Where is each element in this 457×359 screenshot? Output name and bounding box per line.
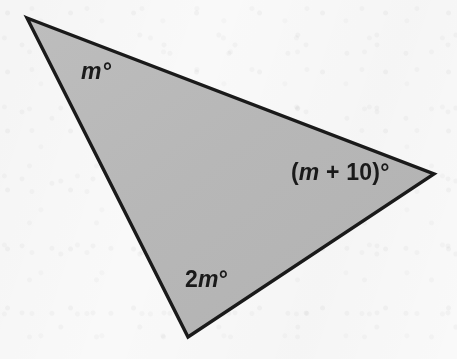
angle-label-right-variable: m: [299, 159, 320, 185]
angle-label-bottom-coefficient: 2: [185, 266, 198, 292]
angle-label-right: (m + 10)°: [291, 161, 390, 184]
angle-label-right-constant: 10: [346, 159, 372, 185]
angle-label-top-left-text: m°: [81, 58, 111, 84]
geometry-figure: m° (m + 10)° 2m°: [0, 0, 457, 359]
angle-label-right-suffix: )°: [372, 159, 389, 185]
angle-label-bottom-suffix: °: [219, 266, 228, 292]
angle-label-bottom: 2m°: [185, 268, 228, 291]
angle-label-right-prefix: (: [291, 159, 299, 185]
angle-label-right-operator: +: [320, 159, 347, 185]
angle-label-top-left: m°: [81, 60, 111, 83]
angle-label-bottom-variable: m: [198, 266, 219, 292]
